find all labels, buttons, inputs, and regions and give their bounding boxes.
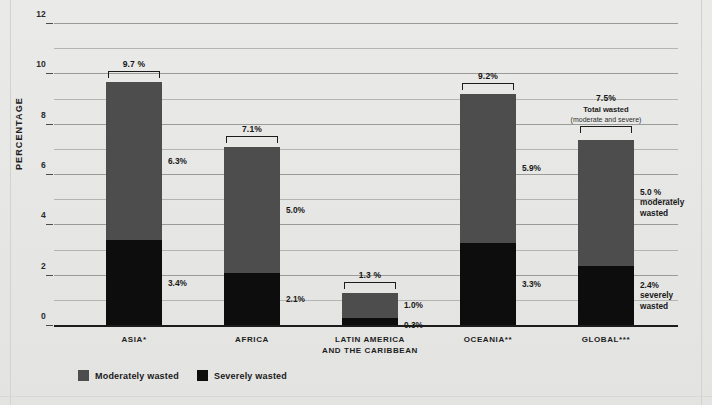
bar-segment-moderate-africa[interactable] [224,147,280,273]
severe-annotation-word: severely [640,290,673,301]
y-tick-mark-6 [46,174,53,175]
y-tick-mark-8 [46,124,53,125]
y-tick-label-2: 2 [41,261,46,271]
total-sublabel-global: Total wasted(moderate and severe) [526,105,686,124]
total-sublabel-line: (moderate and severe) [526,115,686,125]
severe-annotation-global: 2.4%severelywasted [640,280,673,312]
moderate-annotation-global: 5.0 %moderatelywasted [640,187,684,219]
moderate-annotation-africa: 5.0% [286,205,305,216]
moderate-annotation-word: moderately [640,197,684,208]
moderate-annotation-latin-america: 1.0% [404,300,423,311]
y-tick-label-0: 0 [41,311,46,321]
legend-label: Severely wasted [214,371,287,381]
wasting-prevalence-stacked-bar-chart: PERCENTAGE 121086420 9.7 %6.3%3.4%ASIA*7… [0,0,712,405]
legend-item-moderately-wasted[interactable]: Moderately wasted [78,370,179,381]
bar-stack-africa[interactable] [224,147,280,326]
bar-group-oceania[interactable]: 9.2%5.9%3.3%OCEANIA** [460,24,516,326]
total-value-label-global: 7.5% [536,93,676,103]
bar-segment-severe-global[interactable] [578,266,634,326]
severe-annotation-value: 2.4% [640,280,673,291]
bar-stack-global[interactable] [578,140,634,326]
x-axis-baseline [54,325,678,327]
y-tick-mark-10 [46,73,53,74]
bar-stack-oceania[interactable] [460,94,516,326]
bar-group-global[interactable]: Total wasted(moderate and severe)7.5%5.0… [578,24,634,326]
y-tick-mark-4 [46,224,53,225]
y-tick-label-8: 8 [41,110,46,120]
frame-border-right [701,0,702,405]
y-tick-label-10: 10 [36,59,46,69]
bar-segment-moderate-asia[interactable] [106,82,162,241]
total-bracket-latin-america [344,282,396,289]
moderate-annotation-word: wasted [640,208,684,219]
total-bracket-asia [108,71,160,78]
total-bracket-oceania [462,83,514,90]
plot-area: 121086420 9.7 %6.3%3.4%ASIA*7.1%5.0%2.1%… [54,24,678,326]
total-value-label-latin-america: 1.3 % [300,270,440,280]
bar-segment-severe-oceania[interactable] [460,243,516,326]
moderate-annotation-value: 5.0% [286,205,305,216]
moderate-annotation-oceania: 5.9% [522,163,541,174]
chart-legend: Moderately wastedSeverely wasted [78,370,287,381]
y-axis-title: PERCENTAGE [14,97,24,170]
total-value-label-oceania: 9.2% [418,71,558,81]
y-tick-mark-12 [46,23,53,24]
bar-stack-asia[interactable] [106,82,162,326]
y-tick-label-4: 4 [41,210,46,220]
bar-segment-moderate-oceania[interactable] [460,94,516,242]
moderate-annotation-value: 5.9% [522,163,541,174]
bar-stack-latin-america[interactable] [342,293,398,326]
total-bracket-global [580,126,632,133]
total-value-label-asia: 9.7 % [64,59,204,69]
bar-group-asia[interactable]: 9.7 %6.3%3.4%ASIA* [106,24,162,326]
y-tick-label-6: 6 [41,160,46,170]
x-category-label-global: GLOBAL*** [516,334,696,345]
severe-annotation-word: wasted [640,301,673,312]
severe-annotation-asia: 3.4% [168,278,187,289]
severe-annotation-africa: 2.1% [286,294,305,305]
legend-swatch-icon [197,370,208,381]
moderate-annotation-value: 6.3% [168,156,187,167]
bar-segment-moderate-latin-america[interactable] [342,293,398,318]
bar-group-latin-america[interactable]: 1.3 %1.0%0.3%LATIN AMERICAAND THE CARIBB… [342,24,398,326]
y-tick-label-12: 12 [36,9,46,19]
bar-segment-severe-africa[interactable] [224,273,280,326]
moderate-annotation-value: 5.0 % [640,187,684,198]
total-sublabel-line: Total wasted [526,105,686,115]
severe-annotation-value: 3.4% [168,278,187,289]
y-tick-mark-2 [46,275,53,276]
bar-segment-moderate-global[interactable] [578,140,634,266]
total-value-label-africa: 7.1% [182,124,322,134]
frame-border-bottom [0,396,712,397]
y-tick-mark-0 [46,325,53,326]
legend-swatch-icon [78,370,89,381]
moderate-annotation-asia: 6.3% [168,156,187,167]
bar-group-africa[interactable]: 7.1%5.0%2.1%AFRICA [224,24,280,326]
frame-border-left [10,0,11,405]
legend-item-severely-wasted[interactable]: Severely wasted [197,370,287,381]
bar-segment-severe-asia[interactable] [106,240,162,326]
severe-annotation-value: 3.3% [522,279,541,290]
severe-annotation-value: 2.1% [286,294,305,305]
total-bracket-africa [226,136,278,143]
severe-annotation-oceania: 3.3% [522,279,541,290]
x-category-label-line: GLOBAL*** [516,334,696,345]
moderate-annotation-value: 1.0% [404,300,423,311]
x-category-label-line: AND THE CARIBBEAN [280,345,460,356]
legend-label: Moderately wasted [95,371,179,381]
